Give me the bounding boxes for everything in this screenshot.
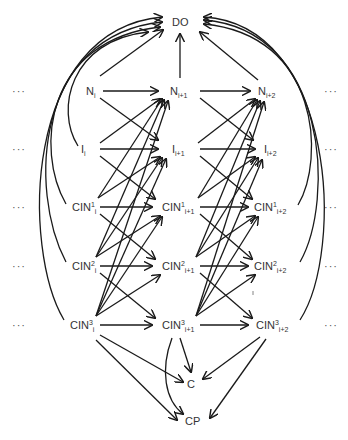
ellipsis-left-row5: ···	[12, 319, 26, 331]
edge-CIN2i2-DO	[204, 20, 318, 262]
node-C: C	[187, 378, 195, 390]
node-N-i1: Ni+1	[170, 85, 188, 97]
edge-CIN1i-DO	[51, 27, 160, 204]
edges-group	[40, 17, 325, 420]
node-I-i: Ii	[81, 143, 86, 155]
node-CP: CP	[185, 415, 200, 427]
ellipsis-right-row2: ···	[324, 143, 338, 155]
ellipsis-left-row4: ···	[12, 260, 26, 272]
node-CIN1-i2: CIN1i+2	[254, 201, 286, 213]
node-I-i2: Ii+2	[264, 143, 277, 155]
node-DO: DO	[172, 16, 189, 28]
node-N-i2: Ni+2	[258, 85, 276, 97]
ellipsis-right-row4: ···	[324, 260, 338, 272]
ellipsis-left-row1: ···	[12, 85, 26, 97]
edge-Ni2-DO	[200, 32, 258, 80]
network-diagram	[0, 0, 348, 440]
node-CIN3-i1: CIN3i+1	[162, 319, 194, 331]
ellipsis-right-row1: ···	[324, 85, 338, 97]
node-I-i1: Ii+1	[172, 143, 185, 155]
ellipsis-right-row5: ···	[324, 319, 338, 331]
ellipsis-right-row3: ···	[324, 201, 338, 213]
node-CIN1-i1: CIN1i+1	[162, 201, 194, 213]
node-CIN2-i1: CIN2i+1	[162, 260, 194, 272]
node-CIN3-i2: CIN3i+2	[256, 319, 288, 331]
node-CIN1-i: CIN1i	[72, 201, 96, 213]
node-CIN3-i: CIN3i	[70, 319, 94, 331]
node-CIN2-i: CIN2i	[72, 260, 96, 272]
ellipsis-left-row3: ···	[12, 201, 26, 213]
edge-Ni-DO	[100, 30, 163, 76]
node-CIN2-i2: CIN2i+2	[254, 260, 286, 272]
ellipsis-left-row2: ···	[12, 143, 26, 155]
node-N-i: Ni	[86, 85, 96, 97]
